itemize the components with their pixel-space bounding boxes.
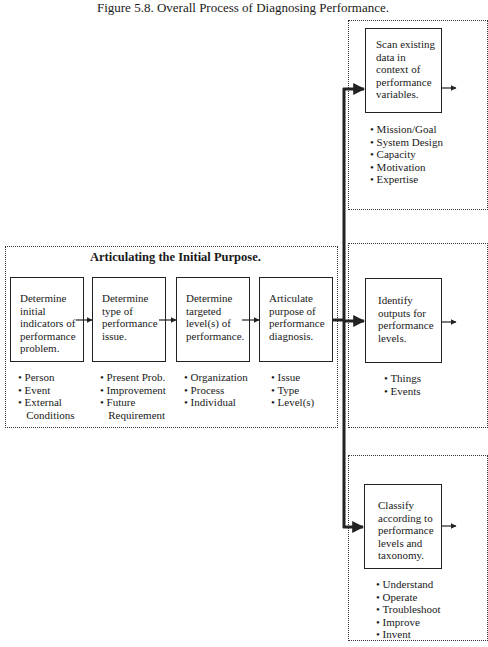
connector-arrows [0,0,486,647]
